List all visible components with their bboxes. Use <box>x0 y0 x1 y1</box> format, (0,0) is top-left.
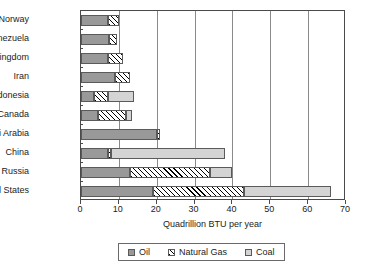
y-axis-label-norway: Norway <box>0 14 29 25</box>
y-axis-tick <box>80 181 83 182</box>
x-axis-tick-label-20: 20 <box>136 204 176 214</box>
legend-item-natural-gas: Natural Gas <box>168 247 227 257</box>
y-axis-label-venezuela: Venezuela <box>0 33 29 44</box>
bar-row <box>81 34 346 45</box>
legend-item-oil: Oil <box>128 247 150 257</box>
bar-row <box>81 167 346 178</box>
y-axis-label-indonesia: Indonesia <box>0 90 29 101</box>
legend-label: Natural Gas <box>179 247 227 257</box>
bar-segment-coal <box>111 148 225 159</box>
legend-label: Coal <box>256 247 275 257</box>
y-axis-tick <box>80 124 83 125</box>
y-axis-tick <box>80 105 83 106</box>
coal-swatch <box>245 249 252 256</box>
bar-row <box>81 15 346 26</box>
bar-row <box>81 129 346 140</box>
x-axis-tick-label-0: 0 <box>60 204 100 214</box>
bar-row <box>81 186 346 197</box>
oil-swatch <box>128 249 135 256</box>
y-axis-tick <box>80 143 83 144</box>
bar-segment-oil <box>81 167 130 178</box>
legend-label: Oil <box>139 247 150 257</box>
bar-row <box>81 53 346 64</box>
y-axis-label-saudi-arabia: Saudi Arabia <box>0 128 29 139</box>
bar-segment-natural-gas <box>115 72 130 83</box>
bar-segment-natural-gas <box>108 53 123 64</box>
bar-row <box>81 148 346 159</box>
y-axis-label-china: China <box>0 147 29 158</box>
bar-segment-coal <box>108 91 135 102</box>
bar-row <box>81 110 346 121</box>
y-axis-tick <box>80 162 83 163</box>
bar-segment-natural-gas <box>108 15 119 26</box>
bar-segment-natural-gas <box>153 186 244 197</box>
x-axis-title: Quadrillion BTU per year <box>80 219 345 229</box>
bar-segment-oil <box>81 148 108 159</box>
y-axis-label-united-states: United States <box>0 185 29 196</box>
bar-segment-oil <box>81 53 108 64</box>
x-axis-tick-label-30: 30 <box>174 204 214 214</box>
bar-row <box>81 91 346 102</box>
y-axis-label-canada: Canada <box>0 109 29 120</box>
natural-gas-swatch <box>168 249 175 256</box>
x-axis-tick-label-40: 40 <box>211 204 251 214</box>
stacked-bar-chart: NorwayVenezuelaUnited KingdomIranIndones… <box>0 0 376 270</box>
bar-segment-oil <box>81 110 98 121</box>
y-axis-tick <box>80 86 83 87</box>
bar-segment-natural-gas <box>130 167 210 178</box>
bar-segment-coal <box>210 167 233 178</box>
plot-area <box>80 10 345 200</box>
x-axis-tick-label-60: 60 <box>287 204 327 214</box>
y-axis-tick <box>80 67 83 68</box>
bar-segment-natural-gas <box>94 91 107 102</box>
y-axis-label-iran: Iran <box>0 71 29 82</box>
x-axis-tick-label-10: 10 <box>98 204 138 214</box>
legend-item-coal: Coal <box>245 247 275 257</box>
y-axis-label-russia: Russia <box>0 166 29 177</box>
x-axis-tick-label-70: 70 <box>325 204 365 214</box>
y-axis-tick <box>80 48 83 49</box>
bar-segment-coal <box>244 186 331 197</box>
y-axis-tick <box>80 29 83 30</box>
y-axis-label-united-kingdom: United Kingdom <box>0 52 29 63</box>
bar-segment-coal <box>126 110 132 121</box>
bar-segment-natural-gas <box>157 129 161 140</box>
bar-segment-oil <box>81 72 115 83</box>
bar-segment-natural-gas <box>109 34 117 45</box>
y-axis-tick <box>80 10 83 11</box>
chart-legend: OilNatural GasCoal <box>118 243 285 261</box>
bar-segment-oil <box>81 186 153 197</box>
bar-segment-oil <box>81 15 108 26</box>
bar-segment-oil <box>81 34 109 45</box>
bar-segment-oil <box>81 129 157 140</box>
bar-segment-natural-gas <box>98 110 126 121</box>
bar-row <box>81 72 346 83</box>
x-axis-tick-label-50: 50 <box>249 204 289 214</box>
bar-segment-oil <box>81 91 94 102</box>
